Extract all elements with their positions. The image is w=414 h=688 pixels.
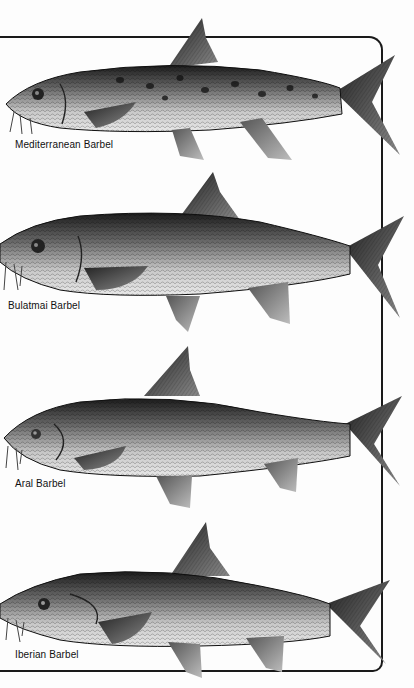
- fish-label: Mediterranean Barbel: [15, 139, 113, 150]
- fish-label: Iberian Barbel: [15, 649, 79, 660]
- fish-label: Bulatmai Barbel: [8, 300, 80, 311]
- fish-illustrations: [0, 0, 414, 688]
- fish-label: Aral Barbel: [15, 478, 66, 489]
- illustration-plate: Mediterranean Barbel Bulatmai Barbel Ara…: [0, 0, 414, 688]
